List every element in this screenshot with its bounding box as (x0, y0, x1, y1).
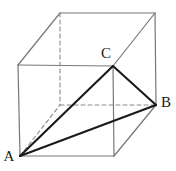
cube-geometry-figure: A B C (0, 0, 176, 171)
triangle-segment-cb (113, 66, 156, 105)
cube-solid-edges (18, 13, 156, 156)
triangle-segment-ac (20, 66, 113, 156)
vertex-label-c: C (101, 45, 111, 61)
edge-back-right (155, 13, 156, 105)
edge-top-right-connector (113, 13, 155, 66)
figure-canvas: A B C (0, 0, 176, 171)
triangle-abc (20, 66, 156, 156)
vertex-label-b: B (161, 94, 171, 110)
edge-top-left-connector (18, 13, 60, 65)
vertex-label-a: A (4, 148, 15, 164)
cube-hidden-edges (20, 13, 156, 156)
edge-front-right (113, 66, 114, 156)
edge-front-top (18, 65, 113, 66)
edge-front-left (18, 65, 20, 156)
